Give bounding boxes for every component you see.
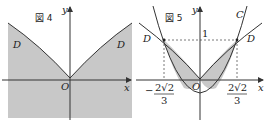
figure-4-title: 図 4 bbox=[35, 13, 53, 23]
y-axis-label: y bbox=[61, 4, 68, 15]
origin-label: O bbox=[61, 81, 69, 92]
figures-canvas: 図 4 y x O D D 図 5 y x O C D D 1 bbox=[0, 0, 268, 127]
y-tick-1: 1 bbox=[202, 28, 208, 39]
curve-d-label-left: D bbox=[142, 33, 151, 44]
figure-5: 図 5 y x O C D D 1 − 2√2 3 2√2 3 bbox=[136, 4, 264, 120]
x-tick-right-denominator: 3 bbox=[234, 95, 240, 106]
x-tick-left-numerator: 2√2 bbox=[155, 82, 174, 93]
origin-label: O bbox=[192, 81, 200, 92]
parabola-c-label: C bbox=[236, 9, 244, 20]
curve-d-label-right: D bbox=[246, 33, 255, 44]
x-tick-left-sign: − bbox=[145, 85, 153, 96]
intersection-point-left bbox=[163, 39, 166, 42]
curve-d-label-left: D bbox=[12, 39, 21, 50]
x-tick-right-numerator: 2√2 bbox=[228, 82, 247, 93]
x-tick-left-denominator: 3 bbox=[161, 95, 167, 106]
x-axis-label: x bbox=[258, 82, 264, 93]
figure-4: 図 4 y x O D D bbox=[2, 4, 132, 120]
y-axis-label: y bbox=[191, 4, 198, 15]
curve-d-label-right: D bbox=[116, 39, 125, 50]
intersection-point-right bbox=[236, 39, 239, 42]
x-axis-label: x bbox=[124, 82, 130, 93]
figure-5-title: 図 5 bbox=[165, 13, 183, 23]
